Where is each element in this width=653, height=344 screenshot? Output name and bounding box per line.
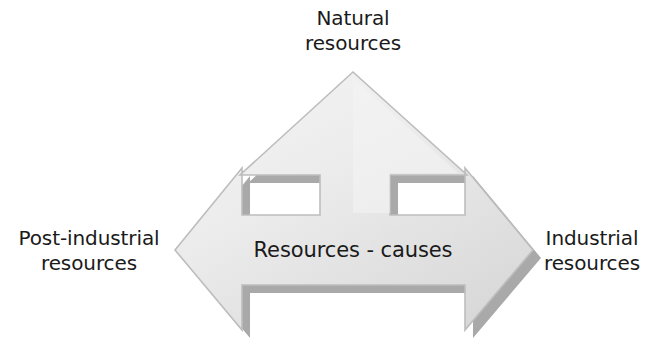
label-industrial-resources: Industrial resources [532, 226, 652, 276]
label-natural-resources: Natural resources [238, 6, 468, 56]
label-resources-causes: Resources - causes [213, 238, 493, 262]
label-post-industrial-resources: Post-industrial resources [4, 226, 174, 276]
diagram-canvas: Natural resources Post-industrial resour… [0, 0, 653, 344]
